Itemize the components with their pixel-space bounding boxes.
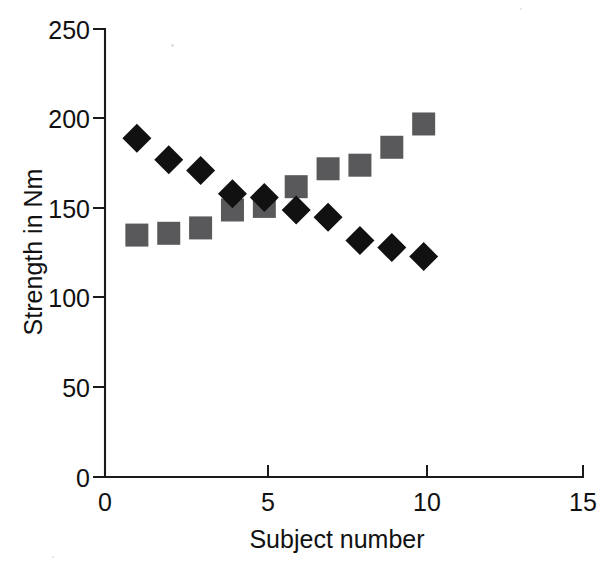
data-point [285,175,308,198]
x-tick-label-10: 10 [413,488,441,516]
y-tick-label-0: 0 [76,464,90,492]
data-point [412,112,435,135]
y-tick-label-150: 150 [48,195,90,223]
data-point [189,216,212,239]
y-axis-title: Strength in Nm [19,169,47,336]
data-point [157,222,180,245]
data-point [317,157,340,180]
y-tick-label-50: 50 [62,374,90,402]
scatter-plot: 250 200 150 100 50 0 0 5 10 15 Subject n… [0,0,616,582]
x-axis-title: Subject number [249,525,424,553]
y-tick-label-250: 250 [48,16,90,44]
plot-background [0,0,616,582]
data-point [348,154,371,177]
data-point [380,136,403,159]
x-tick-label-15: 15 [569,488,597,516]
y-tick-label-100: 100 [48,284,90,312]
x-tick-label-0: 0 [98,488,112,516]
data-point [125,224,148,247]
y-tick-label-200: 200 [48,105,90,133]
chart-figure: 250 200 150 100 50 0 0 5 10 15 Subject n… [0,0,616,582]
x-tick-label-5: 5 [261,488,275,516]
